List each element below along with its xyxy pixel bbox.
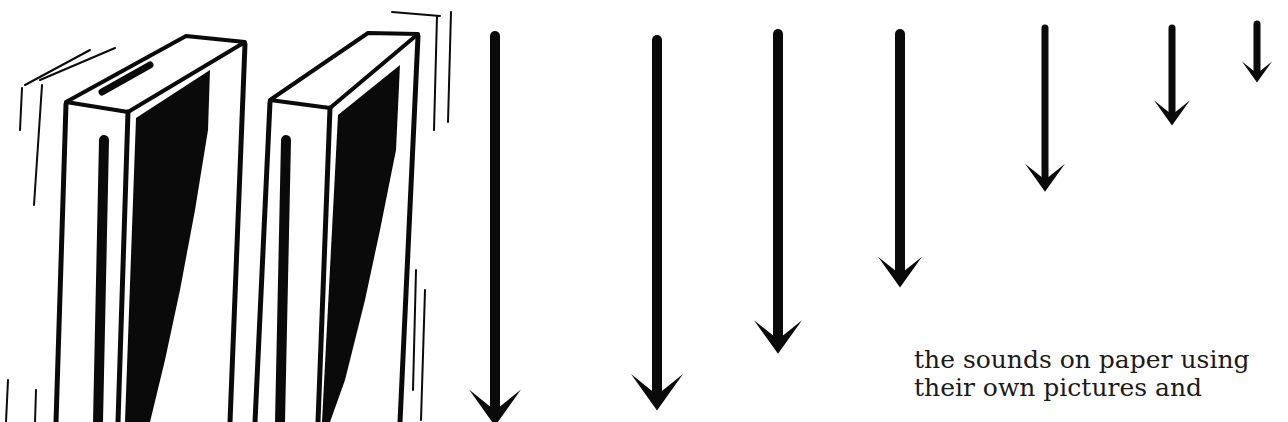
down-arrow-icon (754, 34, 802, 354)
left-box-shading (125, 70, 210, 422)
caption-line-2: their own pictures and (914, 374, 1288, 402)
down-arrow-icon (1154, 28, 1190, 126)
caption-text: the sounds on paper using their own pict… (914, 346, 1288, 402)
down-arrow-icon (469, 36, 521, 422)
down-arrow-icon (1242, 24, 1272, 83)
down-arrow-icon (631, 40, 683, 411)
down-arrow-icon (878, 34, 922, 288)
right-box-shading (322, 65, 400, 422)
caption-line-1: the sounds on paper using (914, 346, 1288, 374)
down-arrow-icon (1025, 28, 1065, 192)
